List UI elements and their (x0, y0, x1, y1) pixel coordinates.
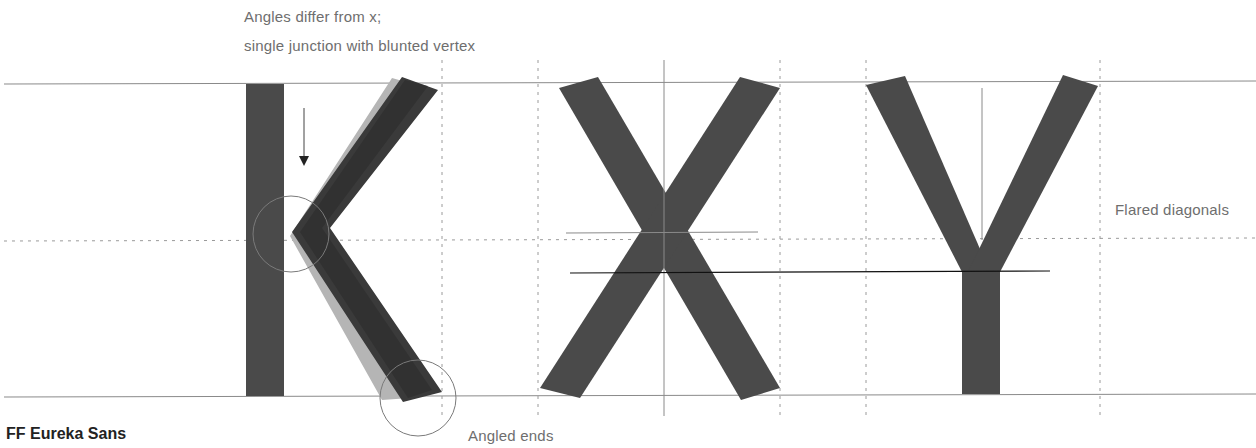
y-stem (962, 270, 1000, 394)
glyph-k (246, 77, 456, 436)
k-stem (246, 84, 284, 396)
angled-ends-label: Angled ends (468, 427, 554, 444)
flared-diagonals-label: Flared diagonals (1115, 201, 1229, 218)
y-left-arm (866, 76, 990, 272)
angles-note-line2: single junction with blunted vertex (244, 37, 475, 54)
glyph-y (866, 75, 1098, 394)
angles-note-line1: Angles differ from x; (244, 8, 381, 25)
x-upper-reference (566, 232, 758, 233)
font-name-caption: FF Eureka Sans (6, 425, 126, 443)
midline-dotted (4, 238, 1256, 241)
type-specimen-diagram (0, 0, 1256, 448)
glyph-x (540, 60, 780, 416)
y-right-arm (968, 75, 1098, 272)
baseline-line (4, 394, 1256, 397)
down-arrow-icon (299, 156, 309, 166)
